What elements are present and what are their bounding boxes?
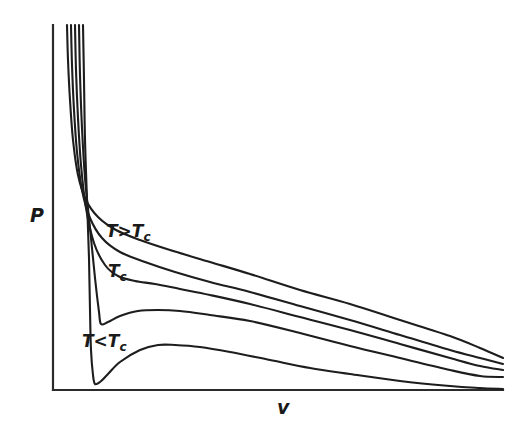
isotherm-curve-4 <box>83 25 503 389</box>
isotherm-curve-group <box>67 25 503 389</box>
y-axis-label: P <box>30 204 44 226</box>
pv-diagram-svg: P v T>Tc Tc T<Tc <box>0 0 529 446</box>
x-axis-label: v <box>277 396 290 418</box>
label-above-critical-subscript: c <box>143 230 150 244</box>
isotherm-figure: P v T>Tc Tc T<Tc <box>0 0 529 446</box>
isotherm-curve-3 <box>79 25 503 377</box>
label-above-critical-operator: > <box>118 221 132 241</box>
label-below-critical: T<Tc <box>82 331 127 354</box>
label-critical-subscript: c <box>120 270 127 284</box>
label-below-critical-subscript: c <box>119 340 126 354</box>
label-below-critical-operator: < <box>94 331 108 351</box>
label-critical: Tc <box>108 261 127 284</box>
label-above-critical: T>Tc <box>106 221 151 244</box>
isotherm-curve-2 <box>75 25 503 370</box>
isotherm-curve-0 <box>67 25 503 358</box>
